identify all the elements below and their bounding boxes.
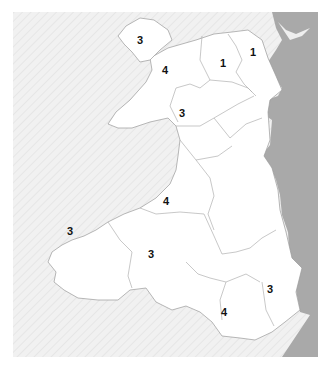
region-label-gwent: 3 — [267, 283, 273, 295]
region-label-conwy-denbigh: 1 — [220, 57, 226, 69]
region-label-ceredigion: 4 — [163, 195, 170, 207]
region-label-anglesey: 3 — [137, 34, 143, 46]
wales-map: 3 4 1 1 3 4 3 3 3 4 — [13, 12, 318, 357]
region-label-carmarthenshire: 3 — [148, 248, 154, 260]
region-label-gwynedd-south: 3 — [179, 107, 185, 119]
region-label-flintshire: 1 — [250, 46, 256, 58]
region-label-glamorgan: 4 — [221, 306, 228, 318]
region-label-gwynedd-north: 4 — [162, 64, 169, 76]
region-label-pembrokeshire: 3 — [67, 225, 73, 237]
map-frame: 3 4 1 1 3 4 3 3 3 4 — [13, 12, 318, 357]
